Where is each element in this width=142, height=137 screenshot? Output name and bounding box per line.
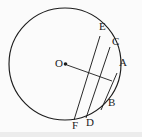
geometry-figure: O A B C D E F (0, 0, 142, 137)
center-dot-icon (64, 62, 68, 66)
label-F: F (72, 120, 78, 131)
page-edge-band (0, 132, 142, 137)
label-B: B (108, 97, 115, 108)
figure-canvas (0, 0, 142, 137)
label-E: E (99, 21, 106, 32)
label-A: A (119, 57, 127, 68)
label-C: C (112, 36, 119, 47)
radius-segment (67, 65, 112, 81)
chord-CD (86, 47, 110, 118)
chord-EF (74, 36, 100, 120)
label-O: O (55, 58, 63, 69)
label-D: D (86, 117, 94, 128)
